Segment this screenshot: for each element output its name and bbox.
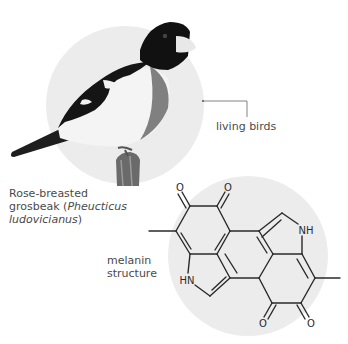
atom-nh-right: NH [299, 225, 314, 236]
melanin-caption-line2: structure [107, 267, 157, 280]
bird-caption-species: ludovicianus [9, 213, 78, 226]
atom-hn-left: HN [180, 275, 195, 286]
bird-caption-line1: Rose-breasted [9, 187, 127, 200]
atom-o-bottom-left: O [259, 318, 267, 329]
diagram-canvas: O O O O NH HN [0, 0, 348, 344]
melanin-caption: melanin structure [107, 254, 157, 280]
atom-o-top-right: O [224, 182, 232, 193]
living-birds-leader-line [202, 100, 247, 117]
melanin-caption-line1: melanin [107, 254, 157, 267]
living-birds-label: living birds [216, 120, 276, 133]
bird-caption-genus: Pheucticus [67, 200, 127, 213]
atom-o-bottom-right: O [307, 318, 315, 329]
molecule-background-circle [168, 176, 328, 336]
bird-caption-line2: grosbeak (Pheucticus [9, 200, 127, 213]
bird-caption: Rose-breasted grosbeak (Pheucticus ludov… [9, 187, 127, 226]
bird-caption-close-paren: ) [78, 213, 82, 226]
bird-caption-common-name: grosbeak ( [9, 200, 67, 213]
atom-o-top-left: O [176, 182, 184, 193]
bird-caption-line3: ludovicianus) [9, 213, 127, 226]
